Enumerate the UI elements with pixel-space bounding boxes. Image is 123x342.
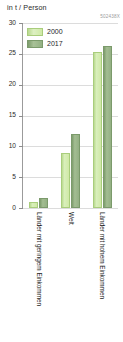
y-axis-tick-mark: [19, 208, 23, 209]
y-axis-tick-label: 0: [12, 205, 16, 212]
plot-area: [23, 23, 118, 208]
y-axis-unit-label: in t / Person: [7, 3, 47, 12]
y-axis-tick-mark: [19, 85, 23, 86]
bar-2017-1: [71, 134, 80, 208]
legend-label-2000: 2000: [47, 28, 63, 35]
y-axis-tick-label: 30: [9, 20, 16, 27]
legend-item-2000: 2000: [27, 26, 63, 37]
bar-chart: in t / Person 502438X 302520151050 Lände…: [0, 0, 123, 342]
y-axis-tick-label: 5: [12, 174, 16, 181]
y-axis-tick-mark: [19, 23, 23, 24]
source-code-label: 502438X: [100, 14, 120, 19]
bar-2000-2: [93, 52, 102, 208]
x-axis-category-label: Länder mit geringem Einkommen: [35, 212, 41, 306]
legend-swatch-2000-icon: [27, 28, 43, 36]
y-axis-tick-mark: [19, 177, 23, 178]
bar-2000-1: [61, 153, 70, 208]
chart-legend: 2000 2017: [27, 26, 63, 50]
y-axis-tick-mark: [19, 54, 23, 55]
y-axis-tick-mark: [19, 116, 23, 117]
y-axis-tick-mark: [19, 146, 23, 147]
x-axis-category-label: Welt: [67, 212, 73, 225]
y-axis-tick-label: 25: [9, 50, 16, 57]
y-axis-tick-label: 10: [9, 143, 16, 150]
bar-2017-0: [39, 198, 48, 208]
gridline: [23, 23, 118, 24]
y-axis-tick-label: 15: [9, 112, 16, 119]
bar-2017-2: [103, 46, 112, 208]
legend-swatch-2017-icon: [27, 40, 43, 48]
gridline: [23, 208, 118, 209]
legend-item-2017: 2017: [27, 38, 63, 49]
x-axis-category-label: Länder mit hohem Einkommen: [99, 212, 105, 299]
bar-2000-0: [29, 202, 38, 208]
y-axis-tick-label: 20: [9, 81, 16, 88]
legend-label-2017: 2017: [47, 40, 63, 47]
